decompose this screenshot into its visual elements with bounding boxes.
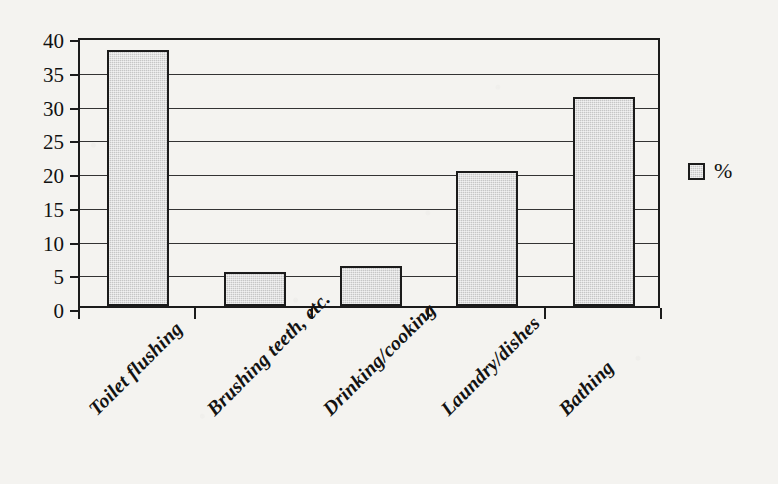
y-axis-tick: 5 [70, 276, 79, 278]
plot-area: 0510152025303540 [78, 38, 660, 308]
y-axis-tick: 10 [70, 243, 79, 245]
y-axis-tick-label: 0 [54, 301, 65, 322]
y-axis-tick-label: 10 [43, 233, 64, 254]
bar-5 [573, 97, 635, 306]
y-axis-tick-label: 30 [43, 98, 64, 119]
legend-swatch-percent [688, 163, 705, 180]
y-axis-tick: 15 [70, 209, 79, 211]
x-axis-tick [660, 308, 662, 319]
category-label-4: Laundry/dishes [436, 312, 545, 421]
y-axis-tick-label: 25 [43, 132, 64, 153]
x-axis-tick [194, 308, 196, 319]
bar-4 [456, 171, 518, 306]
y-axis-tick: 40 [70, 40, 79, 42]
category-label-5: Bathing [554, 356, 618, 420]
y-axis-tick-label: 35 [43, 65, 64, 86]
x-axis-tick [544, 308, 546, 319]
y-axis-tick-label: 40 [43, 31, 64, 52]
x-axis-tick [78, 308, 80, 319]
y-axis-tick-label: 20 [43, 166, 64, 187]
category-label-1: Toilet flushing [84, 317, 187, 420]
bar-1 [107, 50, 169, 307]
y-axis-tick: 35 [70, 74, 79, 76]
y-axis-tick-label: 15 [43, 200, 64, 221]
category-label-3: Drinking/cooking [318, 298, 440, 420]
bar-3 [340, 266, 402, 307]
legend-label-percent: % [714, 160, 732, 182]
bar-2 [224, 272, 286, 306]
y-axis-tick: 25 [70, 141, 79, 143]
y-axis-tick-label: 5 [54, 267, 65, 288]
y-axis-tick: 30 [70, 108, 79, 110]
chart-page: 0510152025303540 Toilet flushingBrushing… [0, 0, 778, 484]
y-axis-tick: 20 [70, 175, 79, 177]
chart-legend: % [688, 160, 732, 182]
